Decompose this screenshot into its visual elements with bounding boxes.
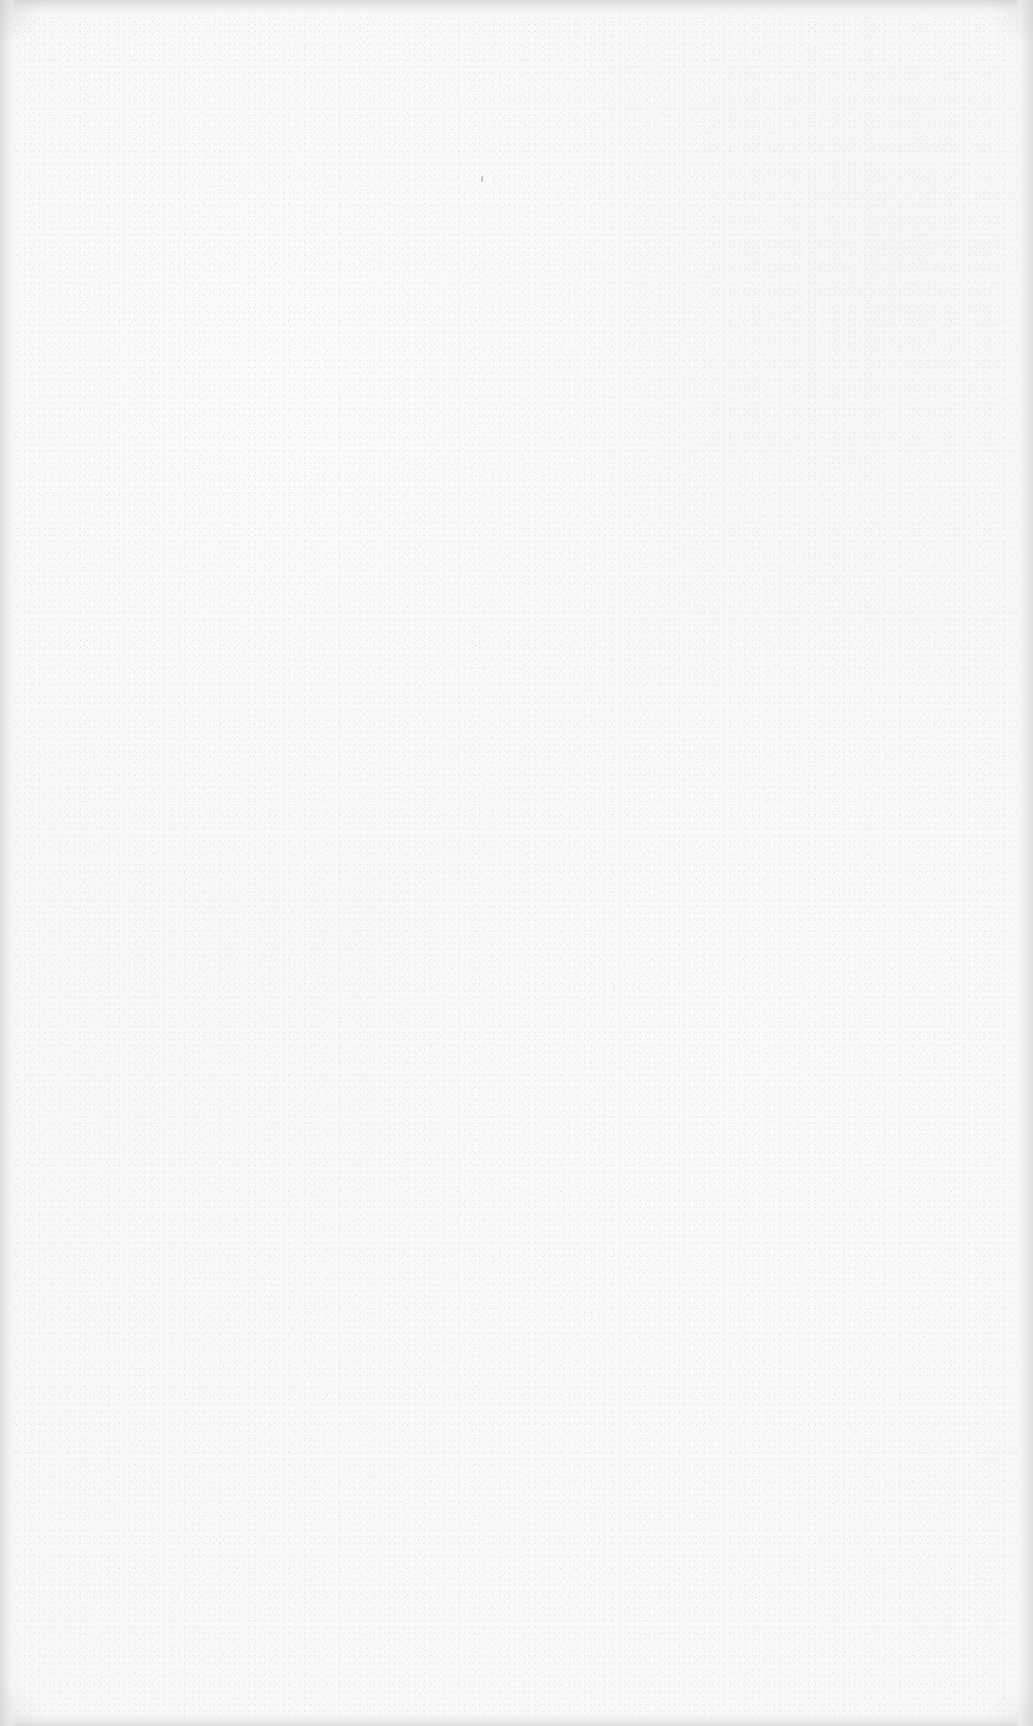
document-content-area xyxy=(96,120,937,1606)
scanned-page xyxy=(0,0,1033,1726)
dust-speck-artifact xyxy=(481,176,483,182)
page-edge-shadow-bottom xyxy=(0,1714,1033,1726)
page-edge-shadow-right xyxy=(1015,0,1033,1726)
page-corner-shadow-bottom-right xyxy=(987,1686,1033,1726)
page-edge-shadow-top xyxy=(0,0,1033,14)
page-corner-shadow-top-left xyxy=(0,0,46,40)
page-corner-shadow-top-right xyxy=(987,0,1033,40)
page-edge-shadow-left xyxy=(0,0,16,1726)
page-corner-shadow-bottom-left xyxy=(0,1686,46,1726)
